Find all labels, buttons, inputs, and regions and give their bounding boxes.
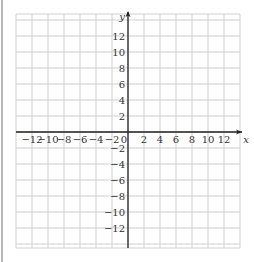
y-tick-label: 12: [112, 31, 125, 42]
y-tick-label: 6: [119, 79, 125, 90]
y-tick-label: 8: [119, 63, 125, 74]
x-tick-label: −10: [37, 134, 58, 145]
x-tick-label: −8: [57, 134, 72, 145]
x-tick-label: 8: [189, 134, 195, 145]
x-tick-label: 6: [173, 134, 179, 145]
x-tick-label: −6: [73, 134, 88, 145]
y-tick-label: 10: [112, 47, 125, 58]
tick-labels: −12−10−8−6−4−202468101212108642−2−4−6−8−…: [21, 11, 249, 234]
x-tick-label: 2: [141, 134, 147, 145]
y-axis-label: y: [118, 11, 125, 22]
y-tick-label: −10: [104, 207, 125, 218]
y-tick-label: −6: [110, 175, 125, 186]
x-tick-label: −4: [89, 134, 104, 145]
y-tick-label: −12: [104, 223, 125, 234]
x-axis-label: x: [243, 134, 249, 145]
x-tick-label: 4: [157, 134, 163, 145]
y-tick-label: −8: [110, 191, 125, 202]
y-tick-label: −2: [110, 143, 125, 154]
y-tick-label: 2: [119, 111, 125, 122]
coordinate-grid-chart: −12−10−8−6−4−202468101212108642−2−4−6−8−…: [0, 0, 254, 262]
x-tick-label: 10: [202, 134, 215, 145]
y-tick-label: −4: [110, 159, 125, 170]
x-tick-label: 12: [218, 134, 231, 145]
y-tick-label: 4: [119, 95, 125, 106]
